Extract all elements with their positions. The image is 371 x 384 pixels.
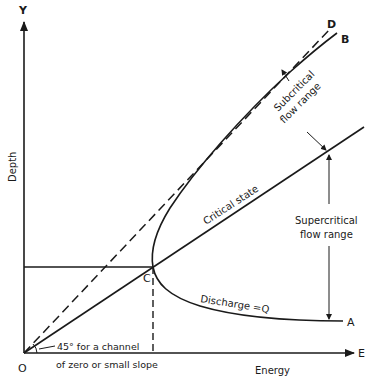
angle-label-line2: of zero or small slope	[56, 359, 158, 370]
angle-label-line1: 45° for a channel	[57, 341, 139, 352]
specific-energy-diagram: Y E O Depth Energy C B A D Critical stat…	[0, 0, 371, 384]
x-axis-letter: E	[358, 347, 365, 360]
x-axis-label: Energy	[255, 365, 290, 376]
supercritical-label-line2: flow range	[300, 229, 353, 240]
supercritical-label-line1: Supercritical	[295, 215, 358, 226]
angle-leader	[39, 346, 55, 349]
point-b-label: B	[341, 33, 349, 46]
subcritical-arrow-down	[307, 132, 326, 150]
origin-letter: O	[18, 362, 27, 375]
point-a-label: A	[347, 316, 355, 329]
discharge-label: Discharge =Q	[200, 293, 271, 315]
critical-state-label: Critical state	[201, 183, 260, 227]
point-d-label: D	[327, 18, 336, 31]
y-axis-letter: Y	[18, 4, 28, 17]
y-axis-label: Depth	[7, 152, 18, 182]
critical-state-line	[24, 127, 364, 353]
point-c-label: C	[143, 272, 151, 285]
lower-limb-curve	[153, 267, 343, 321]
